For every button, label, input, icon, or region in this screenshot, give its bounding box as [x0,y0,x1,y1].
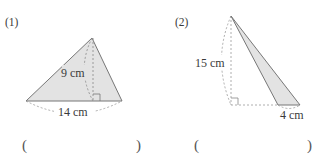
base-label-1: 14 cm [58,105,88,119]
problem-1-number: (1) [5,16,19,29]
problem-2-number: (2) [175,16,189,29]
answer-close-paren-2: ) [307,137,312,154]
triangle-2 [231,16,300,105]
figure-canvas: (1) 14 cm 9 cm ( ) (2) 15 cm 4 cm ( [0,0,321,164]
right-angle-mark-2 [231,98,238,105]
answer-open-paren-2: ( [194,137,199,154]
problem-2: (2) 15 cm 4 cm ( ) [175,16,312,154]
height-label-2: 15 cm [195,56,225,70]
height-label-1: 9 cm [61,66,85,80]
problem-1: (1) 14 cm 9 cm ( ) [5,16,141,154]
answer-open-paren-1: ( [22,137,27,154]
base-label-2: 4 cm [280,108,304,122]
answer-close-paren-1: ) [136,137,141,154]
